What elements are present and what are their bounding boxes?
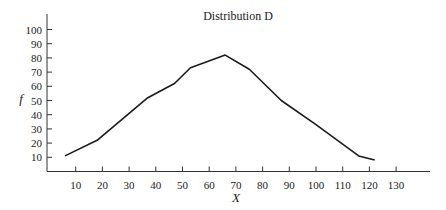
y-tick-label: 10 [31,151,43,163]
y-tick-label: 70 [31,66,43,78]
x-tick-label: 130 [388,179,405,191]
y-tick-label: 20 [31,137,43,149]
line-chart: Distribution D 1020304050607080901001101… [0,0,446,210]
y-tick-label: 50 [31,95,43,107]
data-line [65,55,375,160]
ticks: 1020304050607080901001101201301020304050… [26,24,405,191]
y-tick-label: 30 [31,123,43,135]
x-tick-label: 60 [204,179,216,191]
x-tick-label: 120 [361,179,378,191]
x-tick-label: 110 [335,179,352,191]
x-tick-label: 70 [230,179,242,191]
x-tick-label: 50 [177,179,189,191]
axes [47,14,430,172]
x-axis-label: X [231,190,241,205]
x-tick-label: 30 [124,179,136,191]
chart-title: Distribution D [203,9,273,23]
x-tick-label: 80 [257,179,269,191]
x-tick-label: 10 [70,179,82,191]
y-tick-label: 80 [31,52,43,64]
y-tick-label: 100 [26,24,43,36]
y-tick-label: 90 [31,38,43,50]
x-tick-label: 90 [284,179,296,191]
x-tick-label: 40 [150,179,162,191]
y-tick-label: 60 [31,80,43,92]
y-axis-label: f [19,91,25,106]
x-tick-label: 20 [97,179,109,191]
y-tick-label: 40 [31,109,43,121]
x-tick-label: 100 [308,179,325,191]
